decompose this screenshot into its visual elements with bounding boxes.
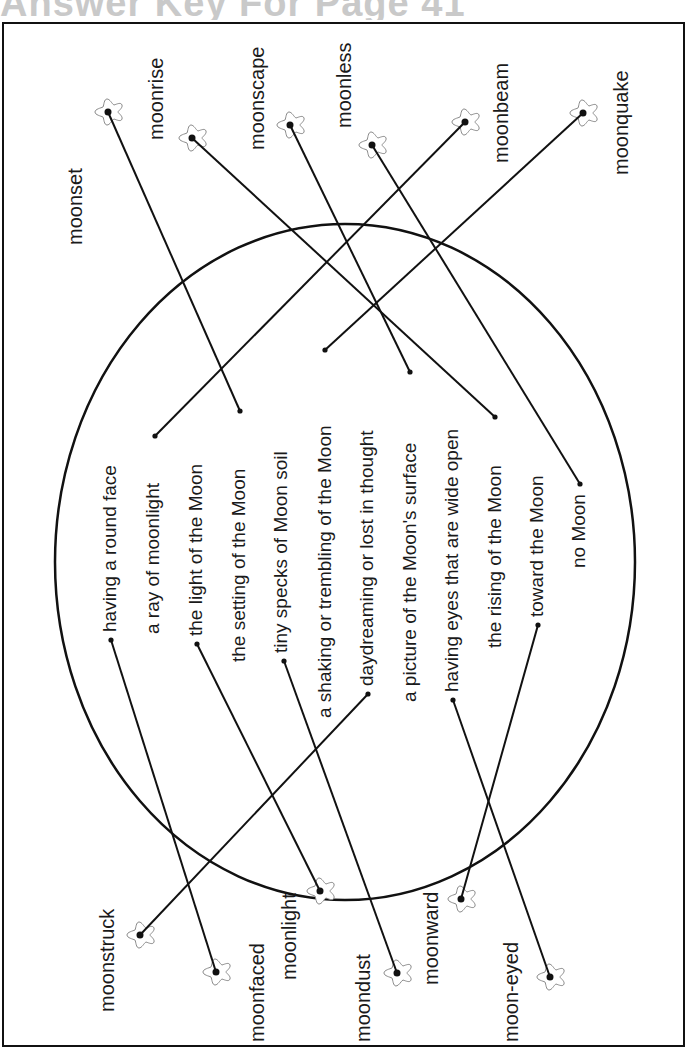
answer-line-moon-eyed (453, 700, 550, 977)
word-moonbeam: moonbeam (490, 63, 513, 163)
word-moonward: moonward (420, 892, 443, 985)
word-moonfaced: moonfaced (246, 943, 269, 1042)
answer-line-moonless (372, 145, 580, 484)
definition-eyes-wide-open: having eyes that are wide open (441, 429, 463, 692)
definition-ray-of-moonlight: a ray of moonlight (142, 483, 164, 634)
answer-line-moonrise (192, 138, 495, 417)
definition-no-moon: no Moon (568, 494, 590, 568)
definition-daydreaming: daydreaming or lost in thought (356, 430, 378, 686)
word-moonstruck: moonstruck (96, 909, 119, 1012)
definition-light-of-moon: the light of the Moon (185, 464, 207, 636)
definition-rising-of-moon: the rising of the Moon (484, 465, 506, 648)
definition-shaking-of-moon: a shaking or trembling of the Moon (314, 425, 336, 718)
word-moonlight: moonlight (278, 893, 301, 980)
word-moonquake: moonquake (610, 70, 633, 175)
word-moonscape: moonscape (246, 47, 269, 150)
word-moonrise: moonrise (145, 58, 168, 140)
answer-line-moonscape (290, 125, 410, 372)
definition-round-face: having a round face (99, 465, 121, 632)
word-moon-eyed: moon-eyed (500, 942, 523, 1042)
answer-line-moonbeam (155, 122, 465, 436)
word-moonless: moonless (333, 42, 356, 128)
definition-moon-soil: tiny specks of Moon soil (270, 451, 292, 653)
word-moonset: moonset (64, 168, 87, 245)
word-moondust: moondust (352, 954, 375, 1042)
definition-toward-moon: toward the Moon (526, 475, 548, 617)
answer-line-moonfaced (111, 640, 216, 972)
definition-setting-of-moon: the setting of the Moon (228, 469, 250, 662)
answer-line-moonset (108, 112, 240, 411)
definition-moon-surface: a picture of the Moon's surface (399, 443, 421, 702)
answer-line-moonward (461, 625, 538, 899)
